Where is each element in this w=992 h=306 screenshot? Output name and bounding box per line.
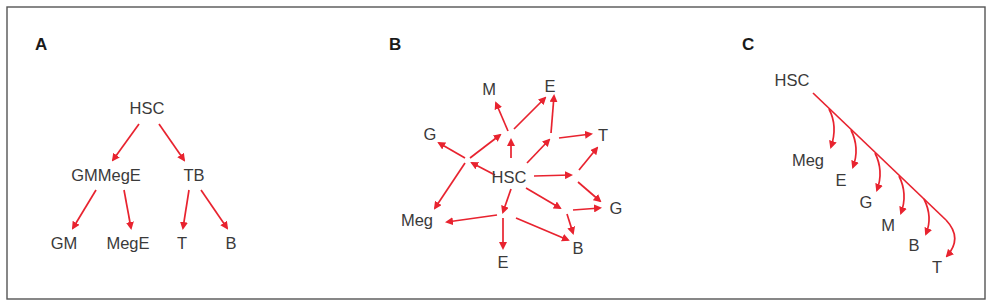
cell-node-hsc: HSC xyxy=(492,168,527,186)
cell-node-t: T xyxy=(177,234,187,252)
cell-node-m: M xyxy=(482,80,496,98)
cell-node-t: T xyxy=(598,126,608,144)
cell-node-hsc: HSC xyxy=(130,99,165,117)
cell-node-e-top: E xyxy=(544,77,555,95)
lineage-diagram: AHSCGMMegETBGMMegETB BHSCMEGTGMegEB CHSC… xyxy=(0,0,992,306)
cell-node-b: B xyxy=(225,234,236,252)
cell-node-b: B xyxy=(908,236,919,254)
cell-node-meg: Meg xyxy=(401,211,433,229)
cell-node-b: B xyxy=(572,239,583,257)
figure-frame xyxy=(7,7,985,299)
cell-node-e-bottom: E xyxy=(497,253,508,271)
cell-node-t: T xyxy=(932,258,942,276)
panel-letter-c: C xyxy=(742,35,754,54)
cell-node-g: G xyxy=(860,193,873,211)
cell-node-gm: GM xyxy=(51,234,78,252)
cell-node-hsc: HSC xyxy=(775,71,810,89)
panel-letter-b: B xyxy=(389,35,401,54)
cell-node-g-right: G xyxy=(610,199,623,217)
cell-node-meg: Meg xyxy=(792,151,824,169)
cell-node-m: M xyxy=(881,216,895,234)
cell-node-e: E xyxy=(835,171,846,189)
cell-node-mege: MegE xyxy=(106,234,149,252)
panel-letter-a: A xyxy=(35,35,47,54)
cell-node-gmmege: GMMegE xyxy=(71,166,141,184)
differentiation-arrow xyxy=(534,175,571,176)
cell-node-tb: TB xyxy=(183,166,204,184)
cell-node-g-left: G xyxy=(424,125,437,143)
